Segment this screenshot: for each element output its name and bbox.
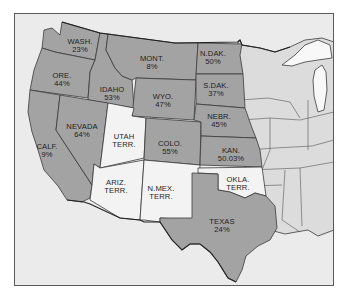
label-mont: MONT.8% <box>140 55 164 71</box>
label-calf: CALF.9% <box>36 143 57 159</box>
label-wash: WASH.23% <box>67 38 92 54</box>
label-nevada: NEVADA64% <box>66 123 97 139</box>
label-utah: UTAHTERR. <box>112 133 135 149</box>
label-ariz: ARIZ.TERR. <box>104 179 127 195</box>
label-nebr: NEBR.45% <box>207 113 231 129</box>
label-okla: OKLA.TERR. <box>226 176 249 192</box>
label-nmex: N.MEX.TERR. <box>148 185 175 201</box>
label-sdak: S.DAK.37% <box>203 82 229 98</box>
label-texas: TEXAS24% <box>209 218 234 234</box>
label-wyo: WYO.47% <box>153 93 174 109</box>
label-idaho: IDAHO53% <box>100 86 125 102</box>
label-ndak: N.DAK.50% <box>200 50 226 66</box>
label-colo: COLO.55% <box>158 140 182 156</box>
label-ore: ORE.44% <box>53 72 72 88</box>
label-kan: KAN.50.03% <box>218 147 244 163</box>
